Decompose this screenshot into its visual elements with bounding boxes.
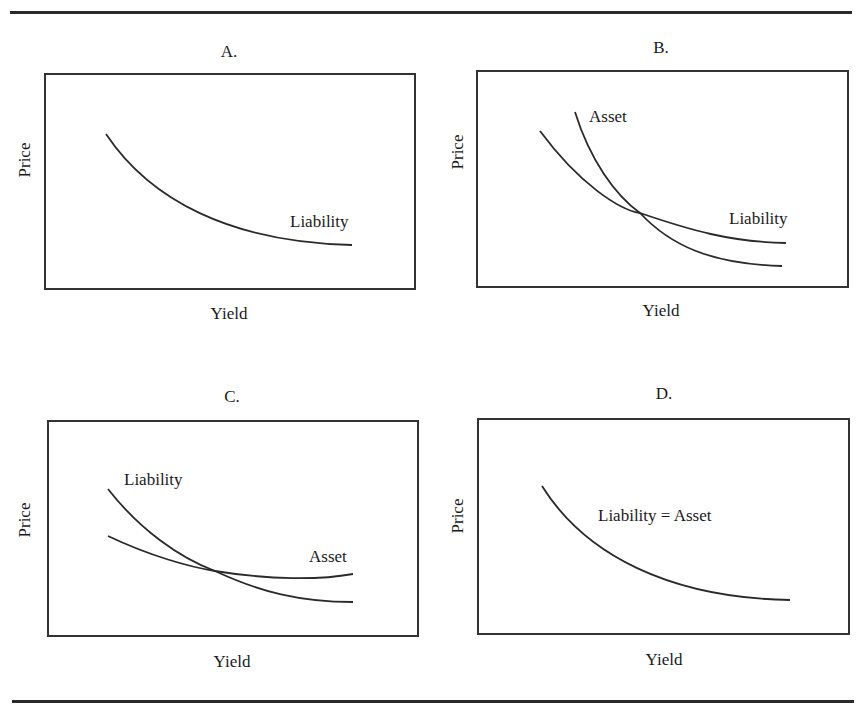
curves-layer: Liability Asset Liability Liability Asse… [0,0,865,709]
panel-b-liability-label: Liability [729,209,788,228]
panel-c-liability-label: Liability [124,470,183,489]
panel-b-asset-label: Asset [589,107,627,126]
panel-d-combined-label: Liability = Asset [598,506,712,525]
panel-c-asset-label: Asset [309,547,347,566]
bottom-rule [12,700,854,703]
panel-a-liability-label: Liability [290,212,349,231]
panel-b-asset-curve [575,112,782,266]
panel-d-combined-curve [542,486,790,600]
panel-c-liability-curve [108,489,353,602]
